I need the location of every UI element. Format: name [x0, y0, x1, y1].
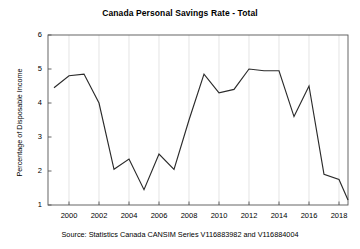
x-tick-label: 2006 [142, 212, 176, 220]
y-tick-label: 3 [26, 133, 42, 141]
y-tick-label: 5 [26, 65, 42, 73]
x-tick-label: 2004 [112, 212, 146, 220]
x-tick-label: 2002 [82, 212, 116, 220]
y-tick-label: 6 [26, 31, 42, 39]
x-tick-label: 2008 [172, 212, 206, 220]
x-tick-label: 2000 [52, 212, 86, 220]
chart-container: Canada Personal Savings Rate - Total Per… [0, 0, 360, 249]
y-tick-label: 4 [26, 99, 42, 107]
plot-frame [48, 35, 348, 205]
y-tick-label: 2 [26, 167, 42, 175]
y-tick-marks [48, 35, 52, 205]
savings-rate-line [54, 69, 348, 200]
grid-lines [69, 35, 339, 205]
x-tick-label: 2014 [262, 212, 296, 220]
x-tick-label: 2012 [232, 212, 266, 220]
source-note: Source: Statistics Canada CANSIM Series … [0, 230, 360, 239]
x-tick-label: 2018 [322, 212, 356, 220]
x-tick-label: 2010 [202, 212, 236, 220]
x-tick-marks [69, 202, 339, 206]
y-tick-label: 1 [26, 201, 42, 209]
x-tick-label: 2016 [292, 212, 326, 220]
